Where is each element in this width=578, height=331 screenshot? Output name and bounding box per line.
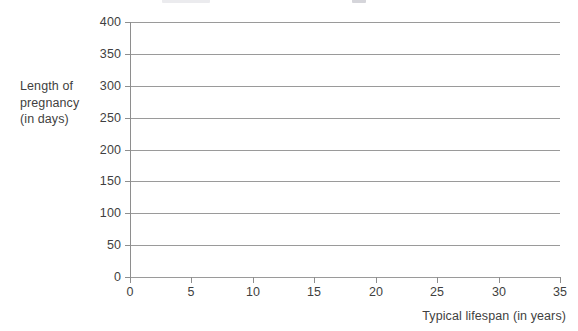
x-tick-25 [437,277,438,283]
gridline-200 [130,150,560,151]
y-tick-label-400: 400 [100,13,121,31]
x-tick-10 [253,277,254,283]
gridline-400 [130,22,560,23]
y-tick-label-50: 50 [107,236,121,254]
cropped-header-remnant [0,0,578,6]
gridline-250 [130,118,560,119]
gridline-50 [130,245,560,246]
x-axis-title: Typical lifespan (in years) [422,308,566,324]
plot-area: 400 350 300 250 200 150 100 50 [130,22,560,277]
gridline-300 [130,86,560,87]
x-tick-0 [130,277,131,283]
y-tick-label-300: 300 [100,77,121,95]
x-tick-label-25: 25 [430,284,444,300]
chart-screenshot: Length of pregnancy (in days) 400 350 30… [0,0,578,331]
x-tick-label-0: 0 [126,284,133,300]
x-tick-label-35: 35 [553,284,567,300]
x-tick-15 [314,277,315,283]
x-tick-35 [560,277,561,283]
gridline-150 [130,181,560,182]
x-tick-label-5: 5 [187,284,194,300]
x-tick-label-10: 10 [246,284,260,300]
y-tick-label-150: 150 [100,172,121,190]
x-tick-20 [376,277,377,283]
y-tick-label-250: 250 [100,109,121,127]
y-tick-label-200: 200 [100,141,121,159]
x-tick-5 [191,277,192,283]
y-tick-label-100: 100 [100,204,121,222]
x-axis-line [130,277,560,278]
x-tick-label-20: 20 [369,284,383,300]
gridline-350 [130,54,560,55]
x-tick-label-15: 15 [307,284,321,300]
y-tick-label-0: 0 [114,268,121,286]
x-tick-label-30: 30 [492,284,506,300]
x-tick-30 [499,277,500,283]
y-tick-label-350: 350 [100,45,121,63]
gridline-100 [130,213,560,214]
